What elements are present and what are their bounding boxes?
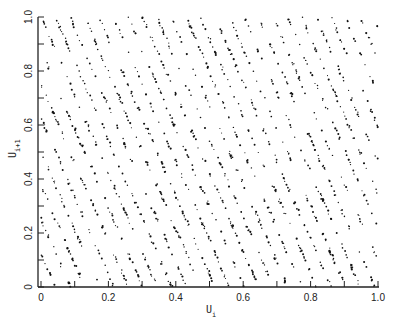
x-ticks <box>41 281 378 287</box>
scatter-chart: 00.20.40.60.81.0 00.20.40.60.81.0 Ui Ui+… <box>0 0 401 328</box>
x-axis-label: Ui <box>206 304 216 319</box>
y-tick-label: 0.4 <box>23 172 34 186</box>
x-tick-label: 0.6 <box>236 292 250 303</box>
y-tick-label: 0 <box>23 284 34 290</box>
x-tick-label: 0.2 <box>101 292 115 303</box>
x-tick-label: 0.8 <box>304 292 318 303</box>
x-tick-labels: 00.20.40.60.81.0 <box>38 292 385 303</box>
data-points <box>40 16 378 287</box>
axes: 00.20.40.60.81.0 00.20.40.60.81.0 <box>23 10 385 303</box>
y-tick-label: 0.6 <box>23 118 34 132</box>
x-tick-label: 0 <box>38 292 44 303</box>
x-tick-label: 1.0 <box>371 292 385 303</box>
y-tick-label: 0.2 <box>23 226 34 240</box>
y-ticks <box>38 17 44 287</box>
x-tick-label: 0.4 <box>169 292 183 303</box>
y-tick-label: 0.8 <box>23 64 34 78</box>
y-tick-labels: 00.20.40.60.81.0 <box>23 10 34 290</box>
y-tick-label: 1.0 <box>23 10 34 24</box>
y-axis-label: Ui+1 <box>7 139 22 158</box>
